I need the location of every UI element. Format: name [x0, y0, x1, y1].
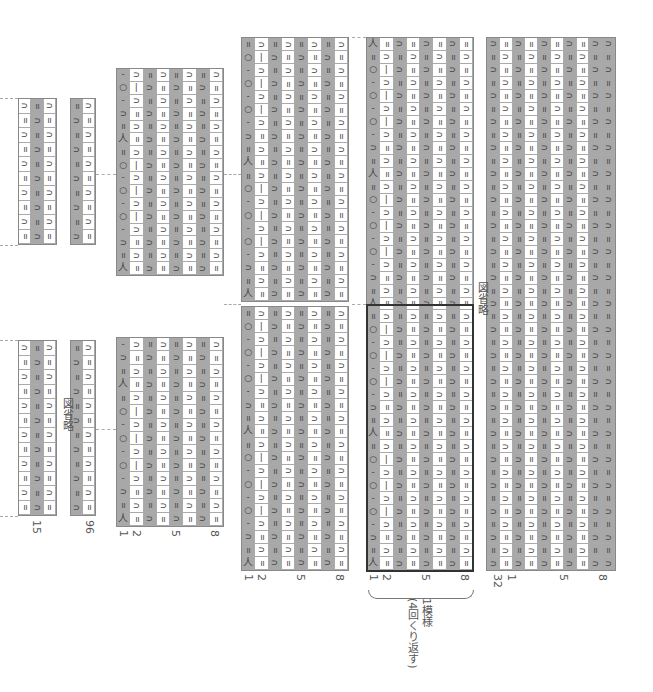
purl-icon: ∩: [565, 222, 574, 229]
purl-icon: ∩: [514, 222, 523, 229]
stitch-cell: =: [551, 401, 564, 414]
knit-icon: =: [72, 345, 80, 351]
stitch-cell: =: [44, 114, 56, 129]
purl-icon: ∩: [185, 123, 194, 130]
stitch-cell: ∩: [538, 194, 551, 207]
knit-icon: =: [514, 495, 522, 501]
stitch-cell: ∩: [322, 288, 335, 301]
stitch-cell: ∩: [500, 155, 513, 168]
knit-icon: =: [604, 106, 612, 112]
knit-icon: =: [527, 301, 535, 307]
purl-icon: ∩: [514, 274, 523, 281]
knit-icon: =: [337, 455, 345, 461]
knit-icon: =: [527, 378, 535, 384]
knit-icon: =: [132, 239, 140, 245]
stitch-cell: ∩: [551, 492, 564, 505]
purl-icon: ∩: [527, 469, 536, 476]
knit-icon: =: [199, 476, 207, 482]
purl-icon: ∩: [527, 106, 536, 113]
stitch-cell: =: [380, 401, 393, 414]
purl-icon: ∩: [283, 93, 292, 100]
stitch-cell: =: [460, 272, 473, 285]
knit-icon: =: [382, 145, 390, 151]
stitch-cell: =: [335, 504, 348, 517]
knit-icon: =: [284, 507, 292, 513]
stitch-cell: =: [447, 440, 460, 453]
stitch-cell: =: [564, 518, 577, 531]
knit-icon: =: [297, 389, 305, 395]
col-num-2: 2: [380, 574, 393, 581]
stitch-cell: 人: [367, 168, 380, 181]
stitch-cell: ∩: [71, 143, 83, 158]
purl-icon: ∩: [45, 402, 54, 409]
stitch-cell: =: [367, 414, 380, 427]
knit-icon: =: [382, 301, 390, 307]
knit-icon: =: [604, 262, 612, 268]
stitch-cell: =: [282, 183, 295, 196]
stitch-cell: =: [407, 298, 420, 311]
stitch-cell: ○: [367, 90, 380, 103]
stitch-cell: ∩: [44, 215, 56, 230]
stitch-cell: ∩: [322, 209, 335, 222]
knit-icon: =: [604, 366, 612, 372]
stitch-cell: ∩: [295, 478, 308, 491]
purl-icon: ∩: [540, 456, 549, 463]
stitch-cell: ∩: [513, 505, 526, 518]
stitch-cell: =: [602, 440, 615, 453]
stitch-cell: ∩: [564, 531, 577, 544]
stitch-cell: =: [282, 320, 295, 333]
stitch-cell: =: [157, 432, 170, 445]
stitch-cell: =: [31, 157, 43, 172]
stitch-cell: ∩: [282, 412, 295, 425]
purl-icon: ∩: [514, 352, 523, 359]
knit-icon: =: [435, 67, 443, 73]
purl-icon: ∩: [501, 547, 510, 554]
stitch-cell: ∩: [183, 472, 196, 485]
purl-icon: ∩: [382, 157, 391, 164]
stitch-cell: 人: [242, 156, 255, 169]
knit-icon: =: [422, 184, 430, 190]
knit-icon: =: [21, 175, 29, 181]
knit-icon: =: [146, 72, 154, 78]
stitch-cell: ∩: [197, 82, 210, 95]
knit-icon: =: [310, 238, 318, 244]
yarn-over-icon: ○: [119, 212, 127, 221]
stitch-cell: ∩: [183, 224, 196, 237]
stitch-cell: ∩: [197, 513, 210, 526]
purl-icon: ∩: [578, 183, 587, 190]
stitch-cell: =: [308, 557, 321, 570]
stitch-cell: =: [407, 375, 420, 388]
bar-icon: |: [385, 91, 388, 100]
purl-icon: ∩: [514, 456, 523, 463]
stitch-cell: ∩: [551, 544, 564, 557]
purl-icon: ∩: [382, 54, 391, 61]
knit-icon: =: [310, 160, 318, 166]
col-num-8: 8: [208, 530, 221, 537]
knit-icon: =: [396, 443, 404, 449]
purl-icon: ∩: [540, 352, 549, 359]
purl-icon: ∩: [435, 157, 444, 164]
knit-icon: =: [185, 111, 193, 117]
knit-icon: =: [297, 442, 305, 448]
knit-icon: =: [297, 225, 305, 231]
purl-icon: ∩: [270, 80, 279, 87]
stitch-cell: ∩: [513, 427, 526, 440]
stitch-cell: =: [602, 233, 615, 246]
knit-icon: =: [33, 190, 41, 196]
stitch-cell: ○: [242, 235, 255, 248]
stitch-cell: |: [380, 90, 393, 103]
stitch-cell: ∩: [407, 155, 420, 168]
purl-icon: ∩: [84, 489, 93, 496]
stitch-cell: ∩: [130, 445, 143, 458]
stitch-cell: ∩: [130, 392, 143, 405]
dash-icon: -: [122, 420, 125, 429]
knit-icon: =: [514, 417, 522, 423]
knit-icon: =: [422, 262, 430, 268]
knit-icon: =: [310, 455, 318, 461]
knit-icon: =: [502, 145, 510, 151]
purl-icon: ∩: [540, 274, 549, 281]
purl-icon: ∩: [514, 560, 523, 567]
stitch-cell: =: [538, 518, 551, 531]
knit-icon: =: [435, 430, 443, 436]
purl-icon: ∩: [382, 261, 391, 268]
